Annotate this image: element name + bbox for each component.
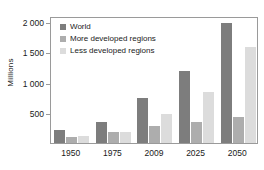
x-tick-label: 2050: [228, 148, 247, 158]
bar-chart-figure: Millions 5001 0001 5002 000 WorldMore de…: [0, 0, 264, 170]
bar: [78, 136, 89, 143]
legend-swatch-icon: [60, 36, 66, 42]
legend-label: World: [70, 22, 91, 32]
y-tick-label: 1 500: [23, 48, 44, 58]
bar-group: [217, 18, 258, 143]
bar: [161, 114, 172, 143]
y-tick-mark: [46, 53, 50, 54]
bar: [96, 122, 107, 143]
bar: [149, 126, 160, 143]
bar-group: [176, 18, 218, 143]
x-axis-tick-labels: 19501975200920252050: [50, 148, 258, 162]
y-tick-mark: [46, 84, 50, 85]
bar: [221, 23, 232, 143]
legend-item: More developed regions: [60, 34, 156, 44]
bar: [108, 132, 119, 143]
bar: [54, 130, 65, 143]
legend-label: More developed regions: [70, 34, 156, 44]
bar: [203, 92, 214, 143]
legend-swatch-icon: [60, 24, 66, 30]
y-tick-mark: [46, 23, 50, 24]
legend: WorldMore developed regionsLess develope…: [60, 22, 156, 56]
y-tick-mark: [46, 114, 50, 115]
y-axis-tick-labels: 5001 0001 5002 000: [14, 0, 47, 170]
x-tick-label: 2009: [145, 148, 164, 158]
bar: [179, 71, 190, 143]
x-tick-label: 1975: [103, 148, 122, 158]
y-tick-label: 2 000: [23, 18, 44, 28]
legend-swatch-icon: [60, 48, 66, 54]
x-tick-label: 1950: [61, 148, 80, 158]
bar: [191, 122, 202, 143]
legend-item: Less developed regions: [60, 46, 156, 56]
legend-label: Less developed regions: [70, 46, 155, 56]
y-tick-label: 500: [30, 109, 44, 119]
bar: [245, 47, 256, 143]
y-tick-label: 1 000: [23, 79, 44, 89]
x-tick-label: 2025: [186, 148, 205, 158]
legend-item: World: [60, 22, 156, 32]
bar: [233, 117, 244, 143]
bar: [137, 98, 148, 143]
bar: [120, 132, 131, 143]
bar: [66, 137, 77, 143]
